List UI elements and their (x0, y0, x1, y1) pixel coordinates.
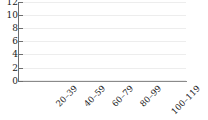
gridline-6 (19, 41, 186, 42)
chart-container: 12 10 8 6 4 2 0 20–39 40–59 60–79 80–99 … (0, 0, 208, 120)
gridline-2 (19, 68, 186, 69)
y-axis-tick-label: 10 (2, 11, 18, 20)
y-tick-mark-0 (19, 81, 23, 82)
x-axis-tick-label: 20–39 (55, 84, 80, 109)
y-axis-tick-label: 12 (2, 0, 18, 7)
x-axis-tick-label: 100–119 (170, 84, 202, 116)
y-tick-mark-8 (19, 28, 23, 29)
plot-area (19, 2, 186, 81)
x-axis-line (19, 81, 187, 82)
y-axis-line (18, 2, 19, 82)
x-axis-tick-label: 80–99 (139, 84, 164, 109)
gridline-10 (19, 15, 186, 16)
y-tick-mark-6 (19, 41, 23, 42)
gridline-12 (19, 2, 186, 3)
y-tick-mark-2 (19, 68, 23, 69)
gridline-8 (19, 28, 186, 29)
y-tick-mark-12 (19, 2, 23, 3)
x-axis-tick-label: 40–59 (83, 84, 108, 109)
gridline-4 (19, 54, 186, 55)
y-axis-tick-label: 8 (2, 24, 18, 33)
y-axis-tick-label: 6 (2, 37, 18, 46)
y-axis-tick-label: 4 (2, 50, 18, 59)
y-axis-tick-label: 0 (2, 77, 18, 86)
y-axis-tick-label: 2 (2, 64, 18, 73)
y-tick-mark-4 (19, 54, 23, 55)
y-tick-mark-10 (19, 15, 23, 16)
x-axis-tick-label: 60–79 (111, 84, 136, 109)
